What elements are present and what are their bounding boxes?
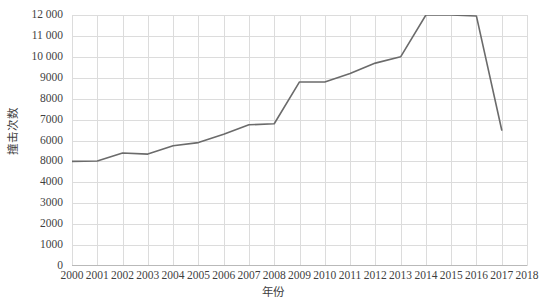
x-axis-tick-label: 2005 — [187, 269, 210, 282]
y-axis-tick-label: 11 000 — [0, 30, 63, 41]
x-axis-tick-label: 2012 — [364, 269, 387, 282]
y-axis-tick-labels: 12 00011 00010 0009000800070006000800040… — [0, 0, 67, 301]
line-series-path — [72, 15, 502, 161]
y-axis-tick-label: 4000 — [0, 176, 63, 187]
x-axis-tick-label: 2007 — [237, 269, 260, 282]
y-axis-tick-label: 7000 — [0, 114, 63, 125]
y-axis-tick-label: 8000 — [0, 155, 63, 166]
y-axis-tick-label: 8000 — [0, 93, 63, 104]
y-axis-tick-label: 6000 — [0, 135, 63, 146]
x-axis-tick-label: 2014 — [414, 269, 437, 282]
chart-figure: 撞击次数 12 00011 00010 00090008000700060008… — [0, 0, 545, 301]
x-axis-tick-label: 2000 — [61, 269, 84, 282]
x-axis-tick-label: 2017 — [490, 269, 513, 282]
line-series-svg — [72, 15, 527, 266]
x-axis-tick-label: 2013 — [389, 269, 412, 282]
y-axis-tick-label: 0 — [0, 260, 63, 271]
x-axis-tick-label: 2004 — [162, 269, 185, 282]
x-axis-tick-label: 2002 — [111, 269, 134, 282]
x-axis-tick-label: 2008 — [263, 269, 286, 282]
x-axis-tick-label: 2003 — [136, 269, 159, 282]
y-axis-tick-label: 10 000 — [0, 51, 63, 62]
y-axis-tick-label: 9000 — [0, 72, 63, 83]
x-axis-tick-label: 2001 — [86, 269, 109, 282]
x-axis-tick-label: 2011 — [339, 269, 362, 282]
plot-area — [72, 15, 527, 266]
y-axis-tick-label: 3000 — [0, 197, 63, 208]
x-axis-title: 年份 — [0, 283, 545, 299]
y-axis-tick-label: 2000 — [0, 218, 63, 229]
series-layer — [72, 15, 527, 266]
x-axis-tick-label: 2009 — [288, 269, 311, 282]
gridline-vertical — [527, 15, 528, 266]
x-axis-tick-label: 2015 — [440, 269, 463, 282]
x-axis-tick-label: 2016 — [465, 269, 488, 282]
y-axis-tick-label: 1000 — [0, 239, 63, 250]
x-axis-tick-label: 2010 — [313, 269, 336, 282]
y-axis-tick-label: 12 000 — [0, 9, 63, 20]
x-axis-tick-label: 2018 — [516, 269, 539, 282]
x-axis-tick-label: 2006 — [212, 269, 235, 282]
